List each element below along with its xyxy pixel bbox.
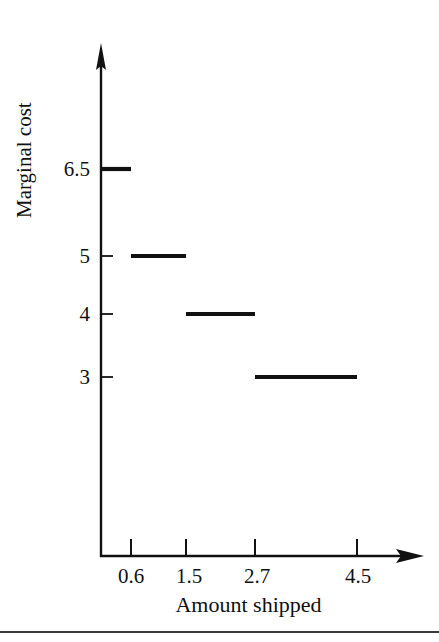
x-tick-label-2-7: 2.7: [244, 566, 270, 587]
y-tick-label-4: 4: [46, 304, 90, 325]
x-tick-label-4-5: 4.5: [345, 566, 371, 587]
y-tick-label-5: 5: [46, 246, 90, 267]
page-bottom-rule: [0, 631, 439, 633]
marginal-cost-step-chart: 6.5 5 4 3 0.6 1.5 2.7 4.5 Marginal cost …: [0, 0, 439, 642]
y-tick-label-3: 3: [46, 367, 90, 388]
y-axis-arrow-icon: [96, 43, 106, 70]
y-tick-label-6-5: 6.5: [46, 159, 90, 180]
x-axis-title: Amount shipped: [0, 594, 439, 616]
x-tick-label-1-5: 1.5: [176, 566, 202, 587]
y-axis-title: Marginal cost: [14, 38, 35, 218]
x-tick-label-0-6: 0.6: [118, 566, 144, 587]
